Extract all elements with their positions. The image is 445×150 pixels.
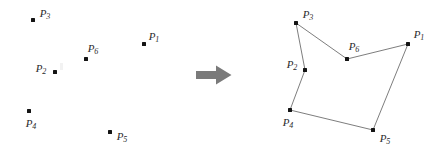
point-dot-p4 [288,108,292,112]
point-dot-p4 [27,109,31,113]
transformation-arrow-icon [196,65,232,85]
label-subscript: 5 [123,135,127,144]
arrow-shape [196,66,232,85]
label-subscript: 4 [289,121,293,130]
label-subscript: 2 [42,67,46,76]
label-base: P [117,130,124,142]
label-base: P [349,40,356,52]
label-base: P [283,116,290,128]
label-subscript: 1 [420,33,424,42]
label-base: P [303,8,310,20]
point-label-p3: P3 [303,9,314,20]
point-dot-p2 [53,70,57,74]
label-subscript: 5 [386,137,390,146]
point-dot-p2 [303,68,307,72]
point-label-p4: P4 [26,118,37,129]
label-subscript: 2 [293,63,297,72]
point-label-p1: P1 [414,29,425,40]
label-subscript: 6 [94,47,98,56]
label-base: P [26,117,33,129]
label-subscript: 6 [355,45,359,54]
point-dot-p3 [31,18,35,22]
point-dot-p3 [294,21,298,25]
point-label-p6: P6 [349,41,360,52]
label-base: P [287,58,294,70]
point-label-p3: P3 [40,8,51,19]
point-dot-p5 [371,128,375,132]
label-base: P [380,132,387,144]
point-dot-p1 [406,42,410,46]
label-base: P [36,62,43,74]
point-label-p2: P2 [287,59,298,70]
point-label-p1: P1 [149,31,160,42]
faint-artifact [60,63,63,70]
point-label-p6: P6 [88,43,99,54]
right-panel-simple-polygon: P1P2P3P4P5P6 [255,0,445,150]
label-base: P [414,28,421,40]
label-subscript: 4 [32,122,36,131]
point-label-p2: P2 [36,63,47,74]
polygon-edges [255,0,445,150]
point-label-p5: P5 [117,131,128,142]
label-subscript: 3 [309,13,313,22]
label-base: P [88,42,95,54]
label-subscript: 3 [46,12,50,21]
left-panel-point-set: P1P2P3P4P5P6 [0,0,190,150]
point-dot-p6 [84,57,88,61]
point-label-p4: P4 [283,117,294,128]
point-dot-p1 [142,42,146,46]
label-subscript: 1 [155,35,159,44]
point-dot-p6 [345,57,349,61]
label-base: P [149,30,156,42]
label-base: P [40,7,47,19]
point-label-p5: P5 [380,133,391,144]
point-dot-p5 [108,130,112,134]
figure-canvas: P1P2P3P4P5P6 P1P2P3P4P5P6 [0,0,445,150]
